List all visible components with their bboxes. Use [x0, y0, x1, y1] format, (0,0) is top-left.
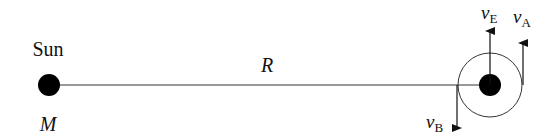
distance-label: R [260, 54, 273, 76]
velocity-label-a: vA [513, 6, 531, 30]
velocity-label-b: vB [426, 111, 443, 135]
orbit-diagram: Sun M R vE vA vB [0, 0, 555, 140]
mass-label: M [39, 113, 58, 135]
sun-label: Sun [32, 38, 63, 60]
velocity-label-e: vE [481, 2, 497, 26]
sun-body [38, 74, 60, 96]
